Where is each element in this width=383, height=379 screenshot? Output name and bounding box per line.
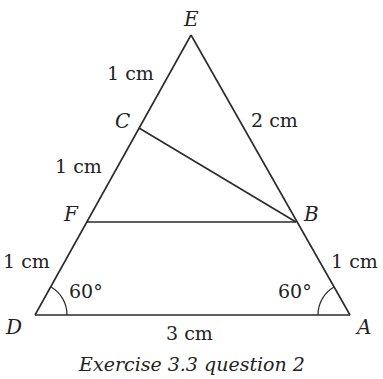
length-label-EC: 1 cm bbox=[107, 62, 154, 84]
point-label-C: C bbox=[115, 109, 130, 133]
point-label-D: D bbox=[5, 315, 22, 339]
triangle-diagram: E C F B D A 1 cm 1 cm 1 cm 2 cm 1 cm 3 c… bbox=[0, 0, 383, 379]
segment-EA bbox=[191, 35, 350, 315]
point-label-F: F bbox=[63, 202, 79, 226]
length-label-FD: 1 cm bbox=[3, 250, 50, 272]
angle-label-D: 60° bbox=[69, 280, 103, 302]
length-label-EB: 2 cm bbox=[251, 109, 298, 131]
point-label-A: A bbox=[355, 315, 371, 339]
point-label-B: B bbox=[303, 202, 319, 226]
segment-CB bbox=[139, 128, 296, 222]
caption: Exercise 3.3 question 2 bbox=[78, 353, 305, 375]
angle-label-A: 60° bbox=[278, 280, 312, 302]
length-label-DA: 3 cm bbox=[166, 322, 213, 344]
length-label-CF: 1 cm bbox=[55, 155, 102, 177]
angle-arc-D bbox=[51, 287, 67, 315]
point-label-E: E bbox=[183, 7, 199, 31]
length-label-BA: 1 cm bbox=[331, 250, 378, 272]
angle-arc-A bbox=[318, 287, 334, 315]
